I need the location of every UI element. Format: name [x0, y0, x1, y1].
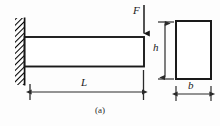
cantilever-beam-figure: F L h b (a)	[0, 0, 220, 126]
fixed-support-wall	[15, 18, 25, 86]
length-label: L	[81, 77, 87, 88]
force-label: F	[133, 5, 140, 16]
height-dimension-h	[158, 22, 174, 79]
height-label: h	[153, 42, 159, 53]
cross-section-rectangle	[176, 21, 211, 79]
diagram-canvas	[0, 0, 220, 126]
beam-body	[25, 37, 144, 67]
figure-caption: (a)	[95, 106, 105, 115]
width-label: b	[188, 80, 194, 91]
